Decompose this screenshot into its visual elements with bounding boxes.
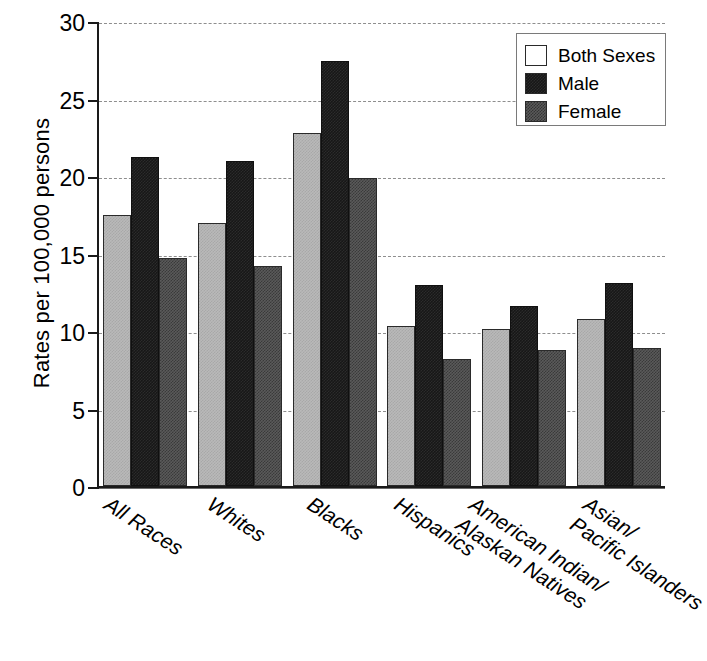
chart-legend: Both Sexes Male Female bbox=[516, 33, 666, 126]
bar-group bbox=[194, 23, 289, 486]
legend-swatch-female bbox=[525, 101, 547, 122]
bar-group bbox=[288, 23, 383, 486]
gridline bbox=[99, 488, 665, 489]
bar-group bbox=[383, 23, 478, 486]
bar-both bbox=[482, 329, 510, 486]
bar-male bbox=[415, 285, 443, 487]
x-tick-label-line: All Races bbox=[100, 492, 187, 560]
bar-both bbox=[198, 223, 226, 487]
bar-female bbox=[349, 178, 377, 486]
y-tick-label: 0 bbox=[35, 477, 99, 500]
y-tick-label: 15 bbox=[35, 245, 99, 268]
x-tick-label-line: Blacks bbox=[304, 492, 368, 545]
legend-label-male: Male bbox=[558, 74, 599, 93]
bar-male bbox=[226, 161, 254, 487]
x-axis-tick-labels: All RacesWhitesBlacksHispanicsAmerican I… bbox=[97, 492, 665, 657]
x-tick-label-line: Whites bbox=[203, 492, 269, 546]
bar-male bbox=[321, 61, 349, 486]
y-tick-label: 5 bbox=[35, 400, 99, 423]
legend-label-female: Female bbox=[558, 102, 621, 121]
bar-both bbox=[387, 326, 415, 486]
bar-female bbox=[159, 258, 187, 486]
y-tick-label: 10 bbox=[35, 322, 99, 345]
legend-item: Female bbox=[525, 97, 665, 125]
legend-item: Both Sexes bbox=[525, 41, 665, 69]
legend-swatch-both-sexes bbox=[525, 45, 547, 66]
y-tick-label: 25 bbox=[35, 90, 99, 113]
legend-item: Male bbox=[525, 69, 665, 97]
bar-female bbox=[633, 348, 661, 486]
y-tick-label: 30 bbox=[35, 12, 99, 35]
x-tick-label: Whites bbox=[203, 492, 270, 547]
bar-group bbox=[99, 23, 194, 486]
bar-both bbox=[103, 215, 131, 486]
bar-male bbox=[605, 283, 633, 486]
x-tick-label: Blacks bbox=[304, 492, 369, 545]
y-tick-label: 20 bbox=[35, 167, 99, 190]
bar-male bbox=[510, 306, 538, 486]
legend-label-both-sexes: Both Sexes bbox=[558, 46, 655, 65]
bar-both bbox=[293, 133, 321, 486]
bar-both bbox=[577, 319, 605, 486]
x-tick-label: All Races bbox=[100, 492, 187, 560]
bar-female bbox=[538, 350, 566, 486]
bar-female bbox=[443, 359, 471, 486]
legend-swatch-male bbox=[525, 73, 547, 94]
bar-male bbox=[131, 157, 159, 486]
bar-female bbox=[254, 266, 282, 486]
